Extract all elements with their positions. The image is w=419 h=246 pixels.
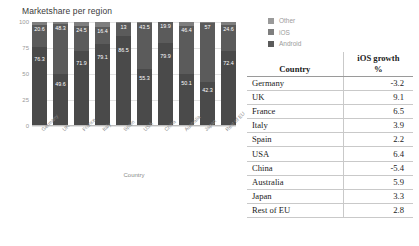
table-header-ios-growth-line1: iOS growth [349, 53, 408, 64]
table-cell-country: Spain [247, 133, 343, 147]
table-cell-ios-growth: 9.1 [343, 90, 413, 104]
y-axis-tick-label: 50 [22, 71, 29, 77]
table-row: Australia5.9 [247, 175, 413, 189]
bar-column[interactable]: 19.979.9 [158, 22, 173, 126]
bar-segment-ios: 19.9 [158, 22, 173, 43]
bar-label-android: 76.3 [34, 56, 45, 62]
table-cell-country: Germany [247, 76, 343, 90]
table-header-ios-growth-line2: % [349, 64, 408, 75]
table-cell-country: UK [247, 90, 343, 104]
legend-label: Android [279, 40, 301, 47]
bar-column[interactable]: 20.676.3 [32, 22, 47, 126]
table-cell-ios-growth: 3.3 [343, 189, 413, 203]
bar-segment-ios: 43.5 [137, 23, 152, 68]
bar-column[interactable]: 5742.3 [200, 22, 215, 126]
table-cell-country: China [247, 161, 343, 175]
table-row: Germany-3.2 [247, 76, 413, 90]
bar-label-android: 72.4 [223, 60, 234, 66]
legend-swatch-icon [268, 41, 274, 47]
ios-growth-table: Country iOS growth % Germany-3.2UK9.1Fra… [247, 52, 413, 218]
bar-label-ios: 19.9 [160, 23, 171, 29]
table-body: Germany-3.2UK9.1France6.5Italy3.9Spain2.… [247, 76, 413, 217]
bar-column[interactable]: 48.349.6 [53, 22, 68, 126]
bar-column[interactable]: 1386.5 [116, 22, 131, 126]
table-row: China-5.4 [247, 161, 413, 175]
bar-segment-ios: 24.6 [221, 25, 236, 51]
table-header-row: Country iOS growth % [247, 52, 413, 76]
report-page: Marketshare per region 0255075100 20.676… [0, 0, 419, 246]
bar-label-ios: 24.6 [223, 26, 234, 32]
bar-segment-ios: 16.4 [95, 27, 110, 44]
bar-label-ios: 46.4 [181, 27, 192, 33]
chart-plot-area: 0255075100 20.676.348.349.624.571.916.47… [32, 22, 236, 126]
bar-segment-android: 76.3 [32, 47, 47, 126]
table-cell-ios-growth: -3.2 [343, 76, 413, 90]
table-cell-country: Italy [247, 119, 343, 133]
bar-segment-ios: 57 [200, 23, 215, 82]
bar-segment-android: 79.9 [158, 43, 173, 126]
bar-label-ios: 43.5 [139, 24, 150, 30]
bar-label-android: 55.3 [139, 75, 150, 81]
bar-column[interactable]: 16.479.1 [95, 22, 110, 126]
table-row: Spain2.2 [247, 133, 413, 147]
table-cell-ios-growth: 6.5 [343, 105, 413, 119]
bar-label-android: 79.9 [160, 53, 171, 59]
legend-item[interactable]: Android [268, 40, 301, 47]
bar-segment-android: 55.3 [137, 69, 152, 127]
table-cell-ios-growth: -5.4 [343, 161, 413, 175]
bar-column[interactable]: 24.672.4 [221, 22, 236, 126]
y-axis-tick-label: 25 [22, 97, 29, 103]
bar-label-android: 49.6 [55, 81, 66, 87]
table-cell-ios-growth: 2.2 [343, 133, 413, 147]
bar-column[interactable]: 46.450.1 [179, 22, 194, 126]
table-header-country: Country [247, 52, 343, 76]
legend-swatch-icon [268, 18, 274, 24]
table-row: France6.5 [247, 105, 413, 119]
table-cell-country: Rest of EU [247, 203, 343, 217]
bar-label-ios: 16.4 [97, 28, 108, 34]
bar-label-ios: 48.3 [55, 25, 66, 31]
table-cell-country: Australia [247, 175, 343, 189]
table-cell-ios-growth: 5.9 [343, 175, 413, 189]
table-cell-country: USA [247, 147, 343, 161]
bar-label-android: 79.1 [97, 54, 108, 60]
bar-label-android: 42.3 [202, 87, 213, 93]
bar-label-android: 86.5 [118, 47, 129, 53]
legend-label: iOS [279, 29, 290, 36]
chart-bars: 20.676.348.349.624.571.916.479.11386.543… [32, 22, 236, 126]
legend-item[interactable]: Other [268, 17, 301, 24]
bar-label-android: 71.9 [76, 60, 87, 66]
x-axis-tick-labels: GermanyUKFranceItalySpainUSAChinaAustral… [32, 128, 236, 172]
bar-column[interactable]: 24.571.9 [74, 22, 89, 126]
legend-label: Other [279, 17, 295, 24]
bar-segment-android: 71.9 [74, 51, 89, 126]
table-cell-ios-growth: 6.4 [343, 147, 413, 161]
table-row: USA6.4 [247, 147, 413, 161]
bar-label-ios: 20.6 [34, 26, 45, 32]
bar-segment-ios: 13 [116, 23, 131, 37]
table-row: Rest of EU2.8 [247, 203, 413, 217]
table-cell-country: Japan [247, 189, 343, 203]
bar-label-ios: 24.5 [76, 27, 87, 33]
legend-item[interactable]: iOS [268, 29, 301, 36]
bar-label-ios: 13 [121, 24, 127, 30]
chart-title: Marketshare per region [22, 6, 112, 16]
table-cell-ios-growth: 3.9 [343, 119, 413, 133]
bar-label-ios: 57 [205, 24, 211, 30]
x-axis-title: Country [32, 172, 236, 178]
bar-segment-ios: 48.3 [53, 24, 68, 74]
table-header-ios-growth: iOS growth % [343, 52, 413, 76]
bar-segment-ios: 20.6 [32, 25, 47, 46]
bar-segment-ios: 46.4 [179, 26, 194, 74]
table-cell-country: France [247, 105, 343, 119]
table-row: UK9.1 [247, 90, 413, 104]
y-axis-tick-label: 100 [19, 19, 29, 25]
bar-column[interactable]: 43.555.3 [137, 22, 152, 126]
table-row: Japan3.3 [247, 189, 413, 203]
table-row: Italy3.9 [247, 119, 413, 133]
bar-segment-android: 86.5 [116, 36, 131, 126]
bar-segment-android: 79.1 [95, 44, 110, 126]
chart-legend: OtheriOSAndroid [268, 17, 301, 52]
bar-segment-android: 72.4 [221, 51, 236, 126]
y-axis-tick-label: 0 [26, 123, 29, 129]
